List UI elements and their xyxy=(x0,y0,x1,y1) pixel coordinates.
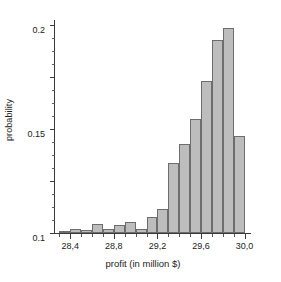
y-axis-tick-label: 0.15 xyxy=(27,129,45,139)
x-axis-tick xyxy=(70,234,71,239)
x-axis-minor-tick xyxy=(179,234,180,237)
histogram-bar xyxy=(234,136,245,233)
y-axis-title-text: probability xyxy=(4,99,14,141)
x-axis-minor-tick xyxy=(92,234,93,237)
histogram-bar xyxy=(179,144,190,233)
x-axis-tick xyxy=(201,234,202,239)
y-axis-minor-tick xyxy=(52,116,55,117)
y-axis-tick-label: 0.1 xyxy=(32,233,45,243)
bar-series xyxy=(54,20,250,233)
y-axis-tick: 0.05 xyxy=(50,181,55,182)
x-axis-minor-tick xyxy=(103,234,104,237)
y-axis-minor-tick xyxy=(52,64,55,65)
y-axis-tick: 0 xyxy=(50,233,55,234)
x-axis-tick xyxy=(114,234,115,239)
y-axis-tick-label: 0.2 xyxy=(32,25,45,35)
y-axis-tick: 0.15 xyxy=(50,77,55,78)
histogram-bar xyxy=(190,119,201,233)
x-axis-tick-label: 28,8 xyxy=(105,241,123,251)
histogram-bar xyxy=(125,222,136,233)
histogram-bar xyxy=(212,40,223,233)
y-axis-minor-tick xyxy=(52,207,55,208)
plot-area: 00.050.10.150.2 28,428,829,229,630,0 xyxy=(54,20,250,233)
y-axis-minor-tick xyxy=(52,194,55,195)
x-axis-minor-tick xyxy=(234,234,235,237)
x-axis-tick-label: 29,6 xyxy=(192,241,210,251)
y-axis-minor-tick xyxy=(52,155,55,156)
x-axis-tick-label: 29,2 xyxy=(149,241,167,251)
y-axis-minor-tick xyxy=(52,220,55,221)
x-axis-minor-tick xyxy=(212,234,213,237)
x-axis-minor-tick xyxy=(147,234,148,237)
histogram-bar xyxy=(114,225,125,233)
histogram-bar xyxy=(157,209,168,233)
y-axis-minor-tick xyxy=(52,103,55,104)
x-axis-minor-tick xyxy=(223,234,224,237)
histogram-bar xyxy=(92,224,103,233)
y-axis-minor-tick xyxy=(52,51,55,52)
histogram-bar xyxy=(201,81,212,233)
y-axis-minor-tick xyxy=(52,168,55,169)
y-axis-minor-tick xyxy=(52,38,55,39)
y-axis-tick: 0.1 xyxy=(50,129,55,130)
x-axis-minor-tick xyxy=(125,234,126,237)
x-axis-minor-tick xyxy=(59,234,60,237)
x-axis-tick-label: 28,4 xyxy=(62,241,80,251)
y-axis-minor-tick xyxy=(52,142,55,143)
x-axis-title: profit (in million $) xyxy=(18,258,268,269)
x-axis-minor-tick xyxy=(168,234,169,237)
x-axis-tick xyxy=(157,234,158,239)
x-axis-tick-label: 30,0 xyxy=(236,241,254,251)
y-axis-title: probability xyxy=(0,0,18,240)
x-axis-minor-tick xyxy=(136,234,137,237)
histogram-bar xyxy=(147,217,158,233)
histogram-bar xyxy=(168,163,179,233)
y-axis-tick: 0.2 xyxy=(50,25,55,26)
histogram-bar xyxy=(223,28,234,233)
x-axis-tick xyxy=(245,234,246,239)
y-axis-minor-tick xyxy=(52,90,55,91)
x-axis-minor-tick xyxy=(190,234,191,237)
x-axis-line xyxy=(54,233,251,234)
x-axis-minor-tick xyxy=(81,234,82,237)
histogram-figure: probability 00.050.10.150.2 28,428,829,2… xyxy=(0,0,281,282)
